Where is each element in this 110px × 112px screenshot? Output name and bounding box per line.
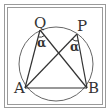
point-label-P: P	[77, 17, 87, 35]
angle-label-P: α	[70, 40, 79, 54]
circumscribed-circle	[19, 27, 93, 101]
geometry-diagram: α α Q P A B	[0, 0, 110, 112]
point-label-Q: Q	[34, 14, 46, 32]
point-label-B: B	[88, 79, 99, 97]
segment-QB	[40, 30, 87, 88]
point-label-A: A	[13, 79, 25, 97]
angle-label-Q: α	[37, 36, 46, 50]
